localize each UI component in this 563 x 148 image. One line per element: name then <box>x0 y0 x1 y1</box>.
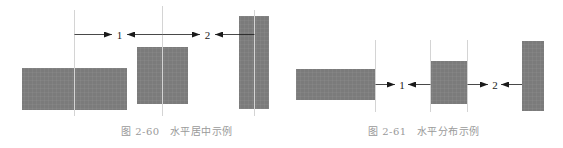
gap-label-2: 2 <box>492 79 498 91</box>
figure-2-61: 1 2 <box>296 40 544 112</box>
gap-label-1: 1 <box>399 79 405 91</box>
tall-rect <box>522 41 544 111</box>
caption-number: 图 2-61 <box>368 126 407 137</box>
caption-number: 图 2-60 <box>121 126 160 137</box>
diagram-canvas: 1 2 1 2 图 2-60水平居中示例 图 2-61水平分布示例 <box>0 0 563 148</box>
wide-rect <box>296 69 375 100</box>
figure-caption-2-60: 图 2-60水平居中示例 <box>121 123 233 138</box>
caption-title: 水平居中示例 <box>170 126 233 137</box>
figure-caption-2-61: 图 2-61水平分布示例 <box>368 123 480 138</box>
caption-title: 水平分布示例 <box>417 126 480 137</box>
figure-2-60: 1 2 <box>22 6 269 116</box>
square-rect <box>430 61 467 104</box>
gap-label-2: 2 <box>205 29 211 41</box>
gap-label-1: 1 <box>117 29 123 41</box>
